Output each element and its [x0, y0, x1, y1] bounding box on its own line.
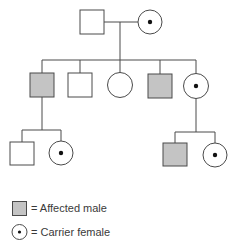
affected-male-swatch-icon — [13, 202, 27, 216]
generation-2 — [30, 60, 209, 99]
generation-3-right — [163, 99, 227, 168]
carrier-dot-icon — [213, 153, 217, 157]
carrier-dot-icon — [18, 230, 21, 233]
legend-item-carrier-female: = Carrier female — [12, 225, 110, 240]
generation-3-left — [10, 97, 73, 165]
individual-III-2-carrier-female — [49, 141, 73, 165]
individual-II-4-affected-male — [148, 74, 172, 98]
individual-II-1-affected-male — [30, 73, 54, 97]
carrier-dot-icon — [194, 84, 198, 88]
legend-label-affected-male: = Affected male — [31, 202, 107, 214]
carrier-dot-icon — [59, 151, 63, 155]
individual-II-5-carrier-female — [184, 74, 209, 99]
individual-I-2-carrier-female — [138, 10, 162, 34]
legend-label-carrier-female: = Carrier female — [31, 226, 110, 238]
individual-II-2-unaffected-male — [68, 73, 92, 97]
pedigree-chart: = Affected male = Carrier female — [0, 0, 231, 245]
individual-III-4-carrier-female — [203, 143, 227, 167]
legend-item-affected-male: = Affected male — [13, 202, 107, 216]
individual-I-1-unaffected-male — [80, 10, 104, 34]
individual-III-1-unaffected-male — [10, 142, 34, 165]
individual-II-3-unaffected-female — [108, 73, 133, 98]
legend: = Affected male = Carrier female — [12, 202, 110, 240]
carrier-dot-icon — [148, 20, 152, 24]
individual-III-3-affected-male — [163, 143, 187, 166]
generation-1 — [80, 10, 162, 60]
